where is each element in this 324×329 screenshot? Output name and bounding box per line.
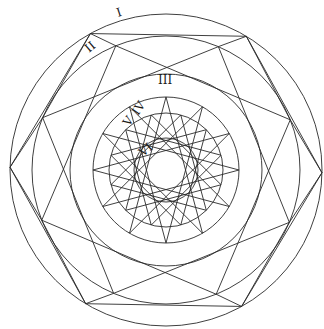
star12-inner-edge bbox=[151, 115, 221, 185]
spoke-edge bbox=[90, 34, 115, 46]
hexagon-edge bbox=[10, 167, 86, 303]
octagram-edge bbox=[114, 222, 290, 293]
octagram-edge bbox=[42, 46, 116, 220]
geometric-diagram: IIIIIIIVVVI bbox=[0, 0, 324, 329]
circle-i bbox=[10, 14, 322, 326]
spoke-edge bbox=[86, 293, 114, 303]
label-v: V bbox=[119, 113, 136, 129]
octagram-edge bbox=[42, 220, 216, 294]
label-ii: II bbox=[82, 38, 98, 55]
hexagon-edge bbox=[242, 173, 322, 307]
label-iii: III bbox=[158, 73, 172, 87]
spoke-edge bbox=[10, 118, 43, 168]
spoke-edge bbox=[218, 36, 246, 46]
label-i: I bbox=[115, 5, 124, 20]
circle-iv bbox=[93, 97, 239, 243]
spoke-edge bbox=[290, 120, 322, 173]
octagram-edge bbox=[218, 47, 289, 223]
spoke-edge bbox=[10, 167, 42, 220]
hexagon-edge bbox=[246, 36, 322, 172]
octagram-edge bbox=[43, 118, 114, 294]
star12-inner-edge bbox=[151, 155, 221, 225]
circle-iii bbox=[70, 74, 262, 266]
spoke-edge bbox=[246, 36, 290, 120]
star12-inner-edge bbox=[111, 155, 181, 225]
spoke-edge bbox=[42, 220, 86, 304]
spoke-edge bbox=[289, 173, 322, 223]
octagram-edge bbox=[216, 120, 290, 294]
concentric-circles bbox=[10, 14, 322, 326]
hexagon-edge bbox=[10, 34, 90, 168]
spoke-edge bbox=[216, 294, 241, 306]
spoke-edge bbox=[242, 222, 290, 306]
